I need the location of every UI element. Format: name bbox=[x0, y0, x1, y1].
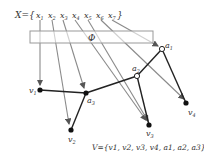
svg-text:x6: x6 bbox=[96, 11, 105, 21]
svg-text:a1: a1 bbox=[165, 41, 173, 51]
node-v3 bbox=[146, 122, 151, 127]
diagram-canvas: Φ X={ x1 x2 x3 x4 x5 x6 x7 } a1 a2 a3 v1… bbox=[0, 0, 204, 156]
svg-text:x4: x4 bbox=[72, 11, 80, 21]
svg-text:x3: x3 bbox=[60, 11, 68, 21]
svg-text:}: } bbox=[117, 10, 123, 20]
node-a1 bbox=[159, 46, 164, 51]
svg-text:x1: x1 bbox=[36, 11, 44, 21]
svg-text:x5: x5 bbox=[84, 11, 92, 21]
output-set-label: V={v1, v2, v3, v4, a1, a2, a3} bbox=[92, 143, 204, 152]
node-a2 bbox=[134, 73, 139, 78]
phi-label: Φ bbox=[88, 33, 95, 43]
svg-text:x7: x7 bbox=[108, 11, 117, 21]
node-v4 bbox=[183, 100, 188, 105]
node-labels: a1 a2 a3 v1 v2 v3 v4 bbox=[29, 41, 196, 145]
svg-text:v3: v3 bbox=[146, 129, 154, 139]
svg-text:v2: v2 bbox=[68, 135, 76, 145]
input-set-items: x1 x2 x3 x4 x5 x6 x7 } bbox=[36, 10, 123, 21]
svg-text:v4: v4 bbox=[188, 108, 196, 118]
svg-text:a3: a3 bbox=[87, 96, 95, 106]
svg-text:v1: v1 bbox=[29, 86, 37, 96]
svg-text:x2: x2 bbox=[48, 11, 56, 21]
svg-text:a2: a2 bbox=[132, 64, 140, 74]
node-a3 bbox=[83, 90, 88, 95]
node-v2 bbox=[68, 127, 73, 132]
input-set-label: X={ bbox=[14, 10, 35, 20]
node-v1 bbox=[37, 87, 42, 92]
